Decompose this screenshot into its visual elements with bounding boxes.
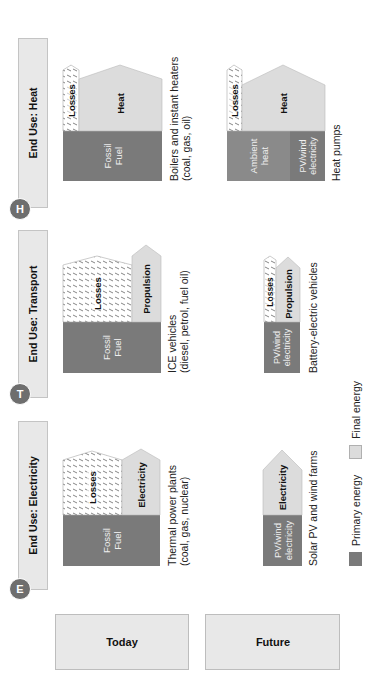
label-losses: Losses [63, 70, 79, 131]
legend-label-primary: Primary energy [350, 475, 362, 546]
caption-ice-vehicles: ICE vehicles (diesel, petrol, fuel oil) [166, 270, 190, 373]
label-electricity: Electricity [263, 460, 302, 515]
label-heat: Heat [79, 76, 162, 131]
legend-swatch-primary [349, 552, 362, 566]
legend: Primary energy Final energy [349, 381, 362, 566]
label-propulsion: Propulsion [132, 256, 161, 322]
label-losses: Losses [63, 265, 132, 322]
label-fossil-fuel: Fossil Fuel [63, 322, 161, 373]
caption-thermal-power-plants: Thermal power plants (coal, gas, nuclear… [166, 465, 190, 566]
label-fossil-fuel: Fossil Fuel [63, 131, 162, 181]
legend-swatch-final [349, 445, 362, 459]
label-propulsion: Propulsion [276, 266, 300, 322]
label-losses: Losses [264, 262, 276, 322]
label-losses: Losses [63, 460, 122, 515]
caption-boilers: Boilers and instant heaters (coal, gas, … [168, 57, 192, 181]
label-pv-wind: PV/wind electricity [263, 515, 302, 566]
label-pv-wind: PV/wind electricity [264, 322, 300, 373]
label-ambient-heat: Ambient heat [227, 131, 290, 181]
label-electricity: Electricity [122, 455, 160, 515]
caption-solar-pv: Solar PV and wind farms [307, 450, 319, 566]
label-fossil-fuel: Fossil Fuel [63, 515, 160, 566]
caption-heat-pumps: Heat pumps [330, 124, 342, 181]
caption-battery-electric-vehicles: Battery-electric vehicles [307, 262, 319, 373]
label-heat: Heat [242, 76, 325, 131]
label-pv-wind: PV/wind electricity [290, 131, 325, 181]
energy-diagram: Today Future End Use: Electricity E End … [0, 0, 375, 696]
label-losses: Losses [227, 70, 242, 131]
legend-label-final: Final energy [350, 381, 362, 439]
